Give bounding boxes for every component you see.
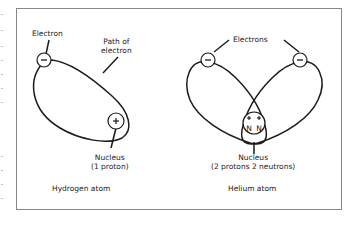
hydrogen-path-label: Path of electron [101, 37, 132, 55]
nucleus-label-line1: Nucleus [211, 153, 295, 162]
helium-nucleus-icon: N N [243, 112, 265, 134]
svg-text:N: N [246, 124, 252, 133]
path-label-line2: electron [101, 46, 132, 55]
helium-nucleus-label: Nucleus (2 protons 2 neutrons) [211, 153, 295, 171]
hydrogen-electron-icon [37, 53, 51, 67]
path-label-line1: Path of [101, 37, 132, 46]
hydrogen-caption: Hydrogen atom [52, 184, 110, 193]
helium-electrons-label: Electrons [233, 35, 268, 44]
helium-electron-left-icon [201, 53, 215, 67]
helium-electron-right-icon [293, 53, 307, 67]
nucleus-label-line1: Nucleus [91, 153, 129, 162]
helium-caption: Helium atom [228, 184, 276, 193]
nucleus-label-line2: (1 proton) [91, 162, 129, 171]
hydrogen-electron-label: Electron [32, 29, 63, 38]
hydrogen-nucleus-icon [108, 113, 124, 129]
nucleus-label-line2: (2 protons 2 neutrons) [211, 162, 295, 171]
svg-text:N: N [256, 124, 262, 133]
hydrogen-nucleus-label: Nucleus (1 proton) [91, 153, 129, 171]
